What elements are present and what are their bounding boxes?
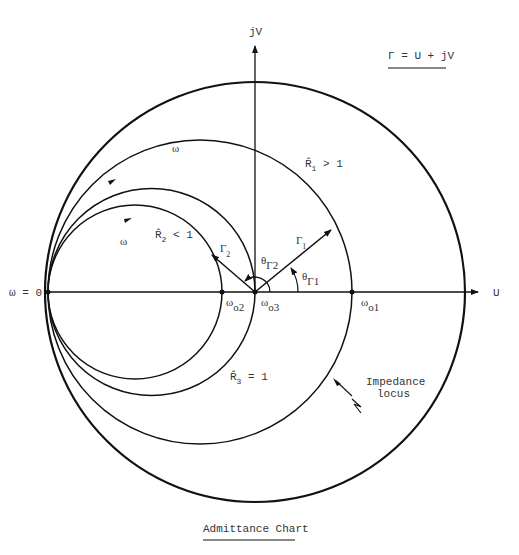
theta1-arc [291, 268, 298, 292]
omega-label-outer: ω [172, 142, 179, 154]
jv-axis-label: jV [249, 26, 263, 38]
origin-dot [46, 290, 51, 295]
omega-o2-label: ωo2 [226, 296, 244, 313]
gamma1-label: Γ1 [296, 234, 306, 251]
impedance-locus-label-2: locus [377, 388, 410, 400]
theta-gamma2-label: θΓ2 [261, 254, 278, 271]
theta-gamma1-label: θΓ1 [302, 270, 319, 287]
impedance-locus-label-1: Impedance [366, 376, 425, 388]
gamma2-vector [212, 255, 255, 292]
omega-o1-dot [350, 290, 355, 295]
r2-label: R̂2 < 1 [155, 228, 193, 244]
pointer-line [336, 381, 352, 396]
omega-o3-dot [253, 290, 258, 295]
impedance-locus-pointer [352, 399, 361, 413]
omega-arrow-icon [124, 218, 132, 223]
r3-label: R̂3 = 1 [230, 370, 268, 386]
omega-o3-label: ωo3 [261, 296, 280, 313]
admittance-chart-diagram: Γ = U + jV jV U ω = 0 ω ω R̂1 > 1 R̂2 < … [0, 0, 519, 555]
omega-zero-label: ω = 0 [9, 287, 42, 299]
omega-o2-dot [220, 290, 225, 295]
omega-arrow-icon [108, 179, 116, 185]
omega-o1-label: ωo1 [361, 296, 379, 313]
omega-label-inner: ω [120, 235, 127, 247]
r1-label: R̂1 > 1 [305, 157, 343, 173]
equation-label: Γ = U + jV [388, 50, 454, 62]
gamma2-label: Γ2 [220, 242, 230, 259]
caption: Admittance Chart [203, 523, 309, 535]
u-axis-label: U [493, 287, 500, 299]
